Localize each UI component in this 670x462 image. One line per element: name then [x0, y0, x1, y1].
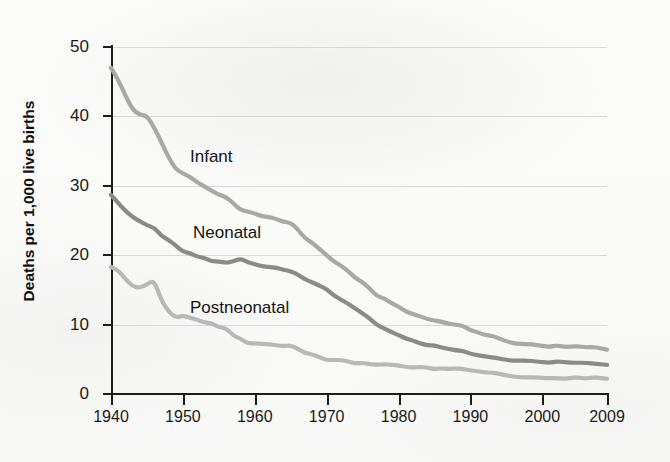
y-tick-label: 0 [55, 384, 89, 404]
x-tick-mark [255, 395, 257, 405]
x-tick-mark [542, 395, 544, 405]
x-tick-label: 1970 [297, 408, 357, 426]
x-tick-mark [183, 395, 185, 405]
series-label-neonatal: Neonatal [193, 223, 261, 243]
x-tick-mark [327, 395, 329, 405]
x-tick-label: 1960 [225, 408, 285, 426]
y-tick-label: 20 [55, 245, 89, 265]
y-tick-label: 50 [55, 37, 89, 57]
x-tick-label: 2000 [512, 408, 572, 426]
y-tick-label: 10 [55, 315, 89, 335]
y-tick-label: 40 [55, 106, 89, 126]
plot-area [111, 47, 607, 394]
series-label-infant: Infant [190, 147, 233, 167]
y-axis-title: Deaths per 1,000 live births [20, 76, 38, 326]
infant-mortality-chart-figure: 01020304050 1940195019601970198019902000… [0, 0, 670, 462]
x-tick-mark [607, 395, 609, 405]
x-tick-label: 1990 [440, 408, 500, 426]
x-tick-label: 1950 [153, 408, 213, 426]
y-tick-label: 30 [55, 176, 89, 196]
series-label-postneonatal: Postneonatal [190, 298, 289, 318]
x-tick-mark [111, 395, 113, 405]
x-tick-label: 1940 [81, 408, 141, 426]
x-tick-label: 1980 [369, 408, 429, 426]
series-line-infant [111, 68, 607, 350]
x-tick-mark [399, 395, 401, 405]
x-tick-label: 2009 [577, 408, 637, 426]
series-lines-svg [111, 47, 607, 394]
x-tick-mark [470, 395, 472, 405]
